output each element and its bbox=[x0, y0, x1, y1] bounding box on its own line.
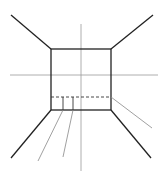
edge-top-right bbox=[111, 15, 153, 49]
edge-top-left bbox=[11, 15, 51, 49]
edge-bottom-left bbox=[11, 110, 51, 158]
right-wall-line bbox=[111, 97, 152, 128]
perspective-diagram bbox=[0, 0, 166, 174]
edge-bottom-right bbox=[111, 110, 151, 158]
floor-line-1 bbox=[38, 110, 63, 161]
floor-line-2 bbox=[63, 110, 73, 157]
